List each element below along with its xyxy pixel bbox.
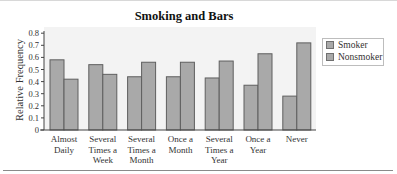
x-tick-label: SeveralTimes aMonth: [127, 134, 155, 165]
y-tick-label: 0.1: [28, 113, 39, 123]
bar-smoker: [89, 65, 103, 130]
y-tick-label: 0.2: [28, 101, 39, 111]
x-tick-label: SeveralTimes aWeek: [89, 134, 117, 165]
bar-smoker: [166, 77, 180, 130]
legend-swatch-smoker: [326, 41, 334, 49]
x-axis-labels: AlmostDailySeveralTimes aWeekSeveralTime…: [51, 134, 308, 165]
legend-item-nonsmoker: Nonsmoker: [323, 51, 383, 63]
x-tick-label: AlmostDaily: [51, 134, 78, 155]
y-tick-label: 0.5: [28, 65, 39, 75]
bar-chart: 00.10.20.30.40.50.60.70.8 AlmostDailySev…: [0, 0, 397, 174]
bar-smoker: [283, 96, 297, 130]
bar-smoker: [244, 85, 258, 130]
bar-nonsmoker: [142, 62, 156, 130]
bar-nonsmoker: [219, 61, 233, 130]
y-axis-title: Relative Frequency: [14, 38, 25, 121]
bottom-divider: [3, 170, 393, 171]
bar-nonsmoker: [258, 54, 272, 130]
bar-smoker: [205, 78, 219, 130]
y-tick-label: 0.3: [28, 89, 39, 99]
bar-smoker: [128, 77, 142, 130]
legend: Smoker Nonsmoker: [322, 38, 384, 66]
legend-label-nonsmoker: Nonsmoker: [338, 51, 382, 63]
y-tick-label: 0.8: [28, 28, 39, 38]
y-axis-ticks: 00.10.20.30.40.50.60.70.8: [28, 28, 44, 135]
y-tick-label: 0: [35, 125, 39, 135]
legend-swatch-nonsmoker: [326, 53, 334, 61]
x-tick-label: Once aMonth: [168, 134, 193, 155]
legend-item-smoker: Smoker: [323, 39, 383, 51]
bar-smoker: [50, 60, 64, 130]
y-tick-label: 0.7: [28, 40, 39, 50]
bar-nonsmoker: [64, 79, 78, 130]
x-tick-label: Once aYear: [245, 134, 270, 155]
y-tick-label: 0.6: [28, 52, 39, 62]
bar-nonsmoker: [103, 74, 117, 130]
legend-label-smoker: Smoker: [338, 39, 368, 51]
x-tick-label: Never: [286, 134, 308, 144]
bar-nonsmoker: [180, 62, 194, 130]
bar-nonsmoker: [297, 43, 311, 130]
x-tick-label: SeveralTimes aYear: [205, 134, 233, 165]
y-tick-label: 0.4: [28, 77, 39, 87]
